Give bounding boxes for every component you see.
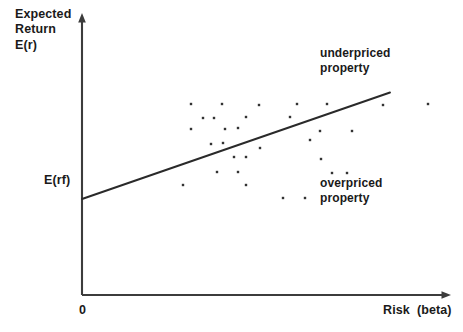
scatter-point — [221, 103, 223, 105]
y-axis-title: Expected Return E(r) — [15, 7, 71, 53]
scatter-point — [233, 156, 235, 158]
scatter-point — [237, 171, 239, 173]
x-axis-title: Risk (beta) — [383, 303, 452, 318]
scatter-point — [245, 116, 247, 118]
scatter-point — [190, 128, 192, 130]
scatter-point — [245, 184, 247, 186]
scatter-point — [319, 130, 321, 132]
scatter-point — [222, 142, 224, 144]
scatter-point — [259, 147, 261, 149]
scatter-point — [382, 104, 384, 106]
overpriced-property-annotation: overpriced property — [320, 176, 382, 205]
scatter-point — [210, 143, 212, 145]
scatter-point — [304, 197, 306, 199]
origin-label: 0 — [79, 303, 86, 318]
underpriced-property-annotation: underpriced property — [320, 46, 390, 75]
scatter-point — [258, 104, 260, 106]
scatter-point — [427, 103, 429, 105]
scatter-point — [309, 139, 311, 141]
chart-figure: Expected Return E(r) E(rf) 0 Risk (beta)… — [0, 0, 463, 332]
scatter-point — [182, 184, 184, 186]
scatter-point — [346, 172, 348, 174]
scatter-point — [190, 103, 192, 105]
x-axis-arrowhead — [442, 291, 452, 299]
scatter-point — [202, 117, 204, 119]
risk-free-rate-label: E(rf) — [44, 173, 70, 188]
scatter-point — [331, 172, 333, 174]
scatter-point — [296, 103, 298, 105]
scatter-point — [216, 171, 218, 173]
axes-group — [78, 13, 451, 299]
scatter-point — [326, 103, 328, 105]
scatter-point — [320, 158, 322, 160]
scatter-point — [224, 128, 226, 130]
scatter-point — [289, 116, 291, 118]
scatter-point — [213, 117, 215, 119]
scatter-point — [245, 156, 247, 158]
scatter-point — [282, 197, 284, 199]
scatter-point — [237, 127, 239, 129]
scatter-point — [351, 130, 353, 132]
y-axis-arrowhead — [78, 13, 86, 23]
